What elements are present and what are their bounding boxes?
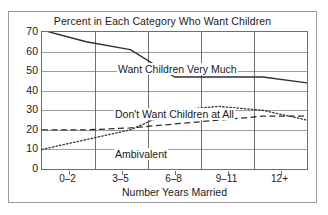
x-axis-tickmark-0 [69,171,70,175]
y-axis-tick-0: 0 [8,163,38,173]
x-axis-tick-2: 6–8 [165,173,182,184]
x-axis-tick-3: 9–11 [216,173,238,184]
x-axis-tickmark-4 [281,171,282,175]
chart-title: Percent in Each Category Who Want Childr… [9,15,316,27]
y-axis-tick-20: 20 [8,124,38,134]
x-axis-tickmark-3 [228,171,229,175]
y-axis-tick-40: 40 [8,85,38,95]
line-series-svg [42,32,307,169]
x-axis-tick-0: 0–2 [59,173,76,184]
chart-figure: Percent in Each Category Who Want Childr… [8,11,317,203]
series-label-ambivalent: Ambivalent [114,148,168,160]
x-axis-tick-labels: 0–23–56–89–1112+ [41,173,308,187]
x-axis-tick-4: 12+ [271,173,288,184]
series-label-want-children-very-much: Want Children Very Much [117,63,238,75]
series-label-dont-want-children-at-all: Don't Want Children at All [114,108,235,120]
y-axis-tick-10: 10 [8,143,38,153]
series-lines [42,32,307,169]
series-line-solid [42,32,307,83]
y-axis-tick-labels: 706050403020100 [9,31,38,170]
y-axis-tick-50: 50 [8,65,38,75]
x-axis-tickmark-1 [122,171,123,175]
y-axis-tick-30: 30 [8,104,38,114]
x-axis-tick-1: 3–5 [112,173,129,184]
y-axis-tick-70: 70 [8,26,38,36]
y-axis-tick-60: 60 [8,46,38,56]
x-axis-title: Number Years Married [41,186,308,198]
x-axis-tickmark-2 [175,171,176,175]
plot-area [41,31,308,170]
